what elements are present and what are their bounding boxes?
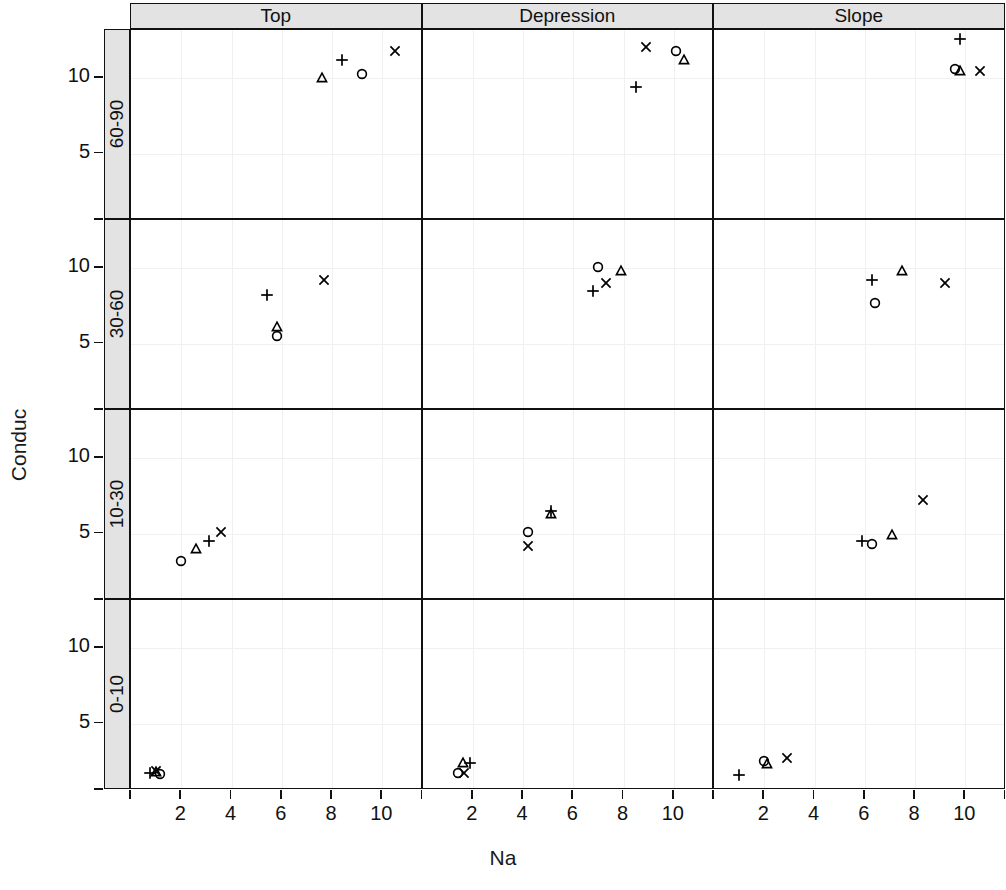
panel-depression-60-90: [422, 29, 714, 219]
gridline-horizontal: [131, 534, 421, 535]
gridline-vertical: [573, 220, 574, 408]
gridline-horizontal: [423, 154, 713, 155]
x-tick-label: 8: [603, 802, 643, 825]
gridline-horizontal: [714, 268, 1004, 269]
x-tick-label: 6: [844, 802, 884, 825]
x-axis-panel-boundary-tick: [712, 790, 714, 799]
x-tick-mark: [672, 790, 674, 799]
gridline-vertical: [181, 220, 182, 408]
gridline-horizontal: [714, 344, 1004, 345]
gridline-vertical: [473, 410, 474, 598]
gridline-horizontal: [423, 344, 713, 345]
gridline-vertical: [523, 30, 524, 218]
trellis-scatter-plot: Conduc Na TopDepressionSlope 60-9030-601…: [0, 0, 1006, 890]
gridline-vertical: [764, 410, 765, 598]
gridline-horizontal: [714, 154, 1004, 155]
y-axis-row-boundary-tick: [94, 218, 103, 220]
gridline-vertical: [473, 30, 474, 218]
y-tick-mark: [94, 152, 103, 154]
gridline-vertical: [332, 220, 333, 408]
gridline-vertical: [523, 220, 524, 408]
x-axis-title-text: Na: [490, 846, 517, 870]
gridline-vertical: [624, 220, 625, 408]
y-tick-mark: [94, 76, 103, 78]
y-tick-label: 5: [30, 140, 90, 163]
y-tick-mark: [94, 722, 103, 724]
gridline-vertical: [382, 600, 383, 788]
gridline-vertical: [332, 410, 333, 598]
x-tick-mark: [813, 790, 815, 799]
y-axis-title-text: Conduc: [7, 409, 31, 481]
gridline-vertical: [282, 220, 283, 408]
x-axis-panel-boundary-tick: [421, 790, 423, 799]
row-strip-label: 0-10: [106, 675, 128, 713]
gridline-vertical: [815, 410, 816, 598]
column-strip-slope: Slope: [713, 3, 1005, 29]
column-strip-depression: Depression: [422, 3, 714, 29]
gridline-horizontal: [423, 458, 713, 459]
gridline-vertical: [674, 220, 675, 408]
gridline-vertical: [915, 30, 916, 218]
gridline-vertical: [815, 600, 816, 788]
gridline-vertical: [232, 410, 233, 598]
x-tick-mark: [913, 790, 915, 799]
x-axis-panel-boundary-tick: [1004, 790, 1006, 799]
gridline-vertical: [181, 600, 182, 788]
gridline-vertical: [282, 30, 283, 218]
y-tick-mark: [94, 456, 103, 458]
x-tick-mark: [571, 790, 573, 799]
gridline-vertical: [764, 220, 765, 408]
y-tick-mark: [94, 342, 103, 344]
panel-top-0-10: [130, 599, 422, 789]
panel-top-10-30: [130, 409, 422, 599]
x-tick-mark: [179, 790, 181, 799]
panel-depression-30-60: [422, 219, 714, 409]
column-strip-label: Depression: [519, 5, 615, 27]
x-tick-label: 4: [502, 802, 542, 825]
x-tick-mark: [380, 790, 382, 799]
gridline-horizontal: [423, 78, 713, 79]
gridline-horizontal: [423, 268, 713, 269]
gridline-vertical: [624, 30, 625, 218]
panel-top-30-60: [130, 219, 422, 409]
gridline-vertical: [624, 600, 625, 788]
gridline-horizontal: [423, 724, 713, 725]
column-strip-top: Top: [130, 3, 422, 29]
x-tick-label: 10: [361, 802, 401, 825]
y-tick-label: 5: [30, 330, 90, 353]
gridline-vertical: [815, 220, 816, 408]
y-tick-label: 10: [30, 254, 90, 277]
gridline-vertical: [865, 30, 866, 218]
gridline-vertical: [865, 220, 866, 408]
gridline-vertical: [573, 600, 574, 788]
gridline-vertical: [332, 600, 333, 788]
gridline-vertical: [624, 410, 625, 598]
row-strip-10-30: 10-30: [104, 409, 130, 599]
gridline-vertical: [282, 410, 283, 598]
x-tick-label: 4: [211, 802, 251, 825]
gridline-vertical: [181, 410, 182, 598]
panel-top-60-90: [130, 29, 422, 219]
y-tick-mark: [94, 266, 103, 268]
gridline-vertical: [865, 600, 866, 788]
gridline-horizontal: [131, 268, 421, 269]
gridline-vertical: [965, 30, 966, 218]
panel-depression-10-30: [422, 409, 714, 599]
x-tick-label: 6: [552, 802, 592, 825]
gridline-vertical: [965, 600, 966, 788]
x-tick-label: 2: [743, 802, 783, 825]
gridline-horizontal: [131, 724, 421, 725]
row-strip-60-90: 60-90: [104, 29, 130, 219]
row-strip-0-10: 0-10: [104, 599, 130, 789]
gridline-vertical: [573, 410, 574, 598]
y-tick-label: 10: [30, 634, 90, 657]
panel-slope-30-60: [713, 219, 1005, 409]
x-tick-mark: [280, 790, 282, 799]
gridline-horizontal: [714, 458, 1004, 459]
x-tick-mark: [230, 790, 232, 799]
x-tick-label: 2: [160, 802, 200, 825]
gridline-vertical: [965, 410, 966, 598]
gridline-vertical: [523, 410, 524, 598]
column-strip-label: Slope: [834, 5, 883, 27]
y-axis-row-boundary-tick: [94, 408, 103, 410]
